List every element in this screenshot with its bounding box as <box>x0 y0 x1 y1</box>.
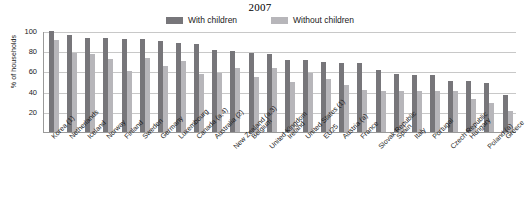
bar-group <box>335 32 353 132</box>
y-axis-tick-label: 60 <box>29 68 37 76</box>
bar <box>453 91 458 132</box>
bar <box>145 58 150 132</box>
bar-group <box>372 32 390 132</box>
chart-legend: With childrenWithout children <box>0 16 520 25</box>
bar <box>54 40 59 132</box>
y-axis-tick-label: 80 <box>29 48 37 56</box>
bar-group <box>444 32 462 132</box>
legend-label: With children <box>188 16 237 25</box>
bar-group <box>136 32 154 132</box>
bar-group <box>99 32 117 132</box>
x-axis-tick-labels: Korea (1)NetherlandsIcelandNorwayFinland… <box>43 133 516 212</box>
bar <box>381 91 386 132</box>
bar-group <box>45 32 63 132</box>
y-axis-tick-label: 100 <box>24 28 37 36</box>
y-axis-tick-label: 20 <box>29 109 37 117</box>
bar <box>108 59 113 132</box>
plot-area <box>43 32 516 133</box>
bar-groups <box>45 32 516 132</box>
legend-label: Without children <box>293 16 354 25</box>
legend-swatch-icon <box>166 17 183 24</box>
bar <box>344 85 349 132</box>
bar-group <box>154 32 172 132</box>
bar <box>326 79 331 132</box>
legend-swatch-icon <box>271 17 288 24</box>
bar-group <box>118 32 136 132</box>
bar-group <box>499 32 517 132</box>
chart-title: 2007 <box>0 1 520 13</box>
y-axis-tick-labels: 20406080100 <box>0 32 41 133</box>
legend-entry: Without children <box>271 16 354 25</box>
legend-entry: With children <box>166 16 237 25</box>
bar-group <box>426 32 444 132</box>
bar <box>308 73 313 132</box>
y-axis-tick-label: 40 <box>29 89 37 97</box>
bar <box>489 103 494 132</box>
